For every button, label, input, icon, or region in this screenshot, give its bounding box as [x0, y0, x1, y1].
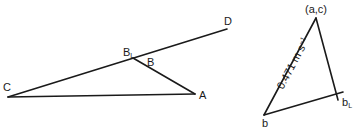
velocity-diagram: (a,c) b bL 0.471 m s−1: [262, 3, 352, 129]
link-ca: [8, 94, 195, 97]
label-bl-vel: bL: [342, 96, 352, 109]
label-c: C: [3, 81, 11, 93]
label-d: D: [224, 15, 232, 27]
vector-b-bl: [264, 92, 343, 115]
label-bl: BL: [123, 46, 134, 59]
label-b-vel: b: [262, 117, 268, 129]
label-ac: (a,c): [305, 3, 327, 15]
mechanism-diagram: C BL B A D (a,c) b bL 0.471 m s−1: [0, 0, 355, 132]
space-diagram: C BL B A D: [3, 15, 232, 101]
label-b: B: [147, 56, 154, 68]
link-cd: [8, 29, 227, 97]
label-a: A: [199, 89, 207, 101]
vector-ac-bl: [316, 18, 338, 100]
link-ba: [133, 58, 195, 94]
velocity-magnitude-label: 0.471 m s−1: [274, 35, 311, 90]
